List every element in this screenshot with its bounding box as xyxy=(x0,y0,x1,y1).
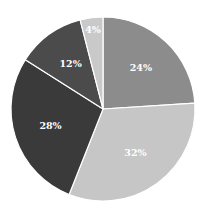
slice-label: 28% xyxy=(39,120,61,131)
slice-label: 24% xyxy=(130,62,152,73)
slice-label: 4% xyxy=(85,24,101,35)
slice-label: 12% xyxy=(59,58,81,69)
pie-slices xyxy=(11,17,195,201)
pie-chart: 24%32%28%12%4% xyxy=(0,0,202,218)
slice-label: 32% xyxy=(124,147,146,158)
